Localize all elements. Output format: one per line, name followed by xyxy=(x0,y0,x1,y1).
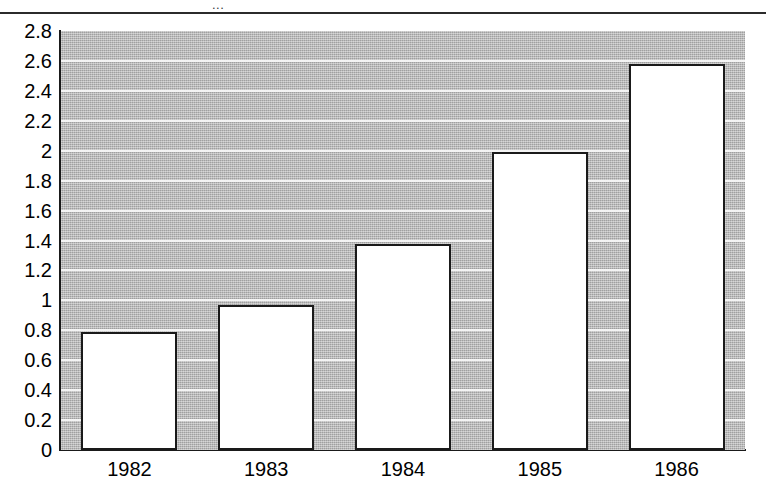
x-axis-tick-label: 1986 xyxy=(608,458,745,480)
y-axis-tick-label: 2.2 xyxy=(0,111,52,131)
y-axis-tick-label: 2.6 xyxy=(0,51,52,71)
bar xyxy=(629,64,725,450)
chart-figure: ... 00.20.40.60.811.21.41.61.822.22.42.6… xyxy=(0,0,766,501)
y-axis-tick-label: 0 xyxy=(0,440,52,460)
x-axis-tick-label: 1985 xyxy=(471,458,608,480)
header-divider xyxy=(0,12,766,14)
x-axis-tick-label: 1984 xyxy=(335,458,472,480)
y-axis-tick-label: 0.4 xyxy=(0,380,52,400)
bar xyxy=(355,244,451,451)
bar xyxy=(218,305,314,450)
y-axis-tick-label: 2.8 xyxy=(0,21,52,41)
bar xyxy=(492,152,588,450)
y-axis-tick-label: 1.2 xyxy=(0,260,52,280)
y-axis-tick-label: 2 xyxy=(0,141,52,161)
y-axis-tick-label: 1.8 xyxy=(0,171,52,191)
cropped-title-fragment: ... xyxy=(212,0,234,10)
y-axis-tick-label: 1.6 xyxy=(0,201,52,221)
x-axis-tick-label: 1982 xyxy=(61,458,198,480)
x-axis-tick-label: 1983 xyxy=(198,458,335,480)
gridline xyxy=(61,60,745,62)
y-axis-tick-label: 1 xyxy=(0,290,52,310)
y-axis-tick-label: 0.2 xyxy=(0,410,52,430)
y-axis-tick-label: 0.8 xyxy=(0,320,52,340)
y-axis-tick-label: 1.4 xyxy=(0,231,52,251)
y-axis-tick-label: 2.4 xyxy=(0,81,52,101)
y-axis-tick-label: 0.6 xyxy=(0,350,52,370)
plot-area xyxy=(61,31,745,450)
bar xyxy=(81,332,177,450)
